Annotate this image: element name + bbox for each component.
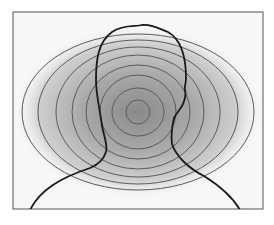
head-radiation-illustration [0,0,274,225]
radiation-glow [14,26,262,198]
